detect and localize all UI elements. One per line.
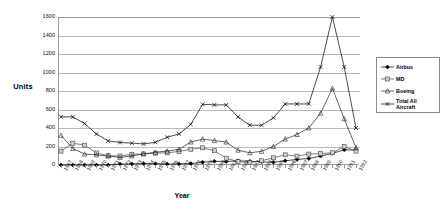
y-axis-tick-label: 400 <box>30 125 55 131</box>
y-axis-tick-label: 1000 <box>30 70 55 76</box>
chart-legend: AirbusMDBoeingTotal All Aircraft <box>376 57 440 113</box>
square-marker-icon <box>379 74 396 84</box>
legend-item-total-all-aircraft[interactable]: Total All Aircraft <box>379 97 437 111</box>
y-axis-tick-label: 600 <box>30 107 55 113</box>
y-axis-tick-label: 1400 <box>30 33 55 39</box>
legend-label: Airbus <box>396 64 413 70</box>
legend-label: Total All Aircraft <box>396 98 437 110</box>
y-axis-tick-label: 200 <box>30 144 55 150</box>
data-series-layer <box>58 17 359 165</box>
chart-container: Units Year 02004006008001000120014001600… <box>0 0 444 211</box>
x-marker-icon <box>379 99 396 109</box>
legend-label: MD <box>396 76 404 82</box>
x-axis-title: Year <box>0 192 364 199</box>
series-boeing <box>59 86 358 159</box>
diamond-marker-icon <box>379 62 396 72</box>
series-total-all-aircraft <box>59 15 358 146</box>
legend-item-boeing[interactable]: Boeing <box>379 85 437 97</box>
triangle-marker-icon <box>379 86 396 96</box>
y-axis-tick-label: 1200 <box>30 51 55 57</box>
y-axis-tick-label: 1600 <box>30 14 55 20</box>
y-axis-tick-label: 800 <box>30 88 55 94</box>
y-axis-tick-label: 0 <box>30 162 55 168</box>
legend-label: Boeing <box>396 88 414 94</box>
legend-item-md[interactable]: MD <box>379 73 437 85</box>
legend-item-airbus[interactable]: Airbus <box>379 61 437 73</box>
